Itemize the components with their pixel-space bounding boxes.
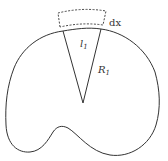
dashed-element-dx xyxy=(58,9,106,27)
radius-label: R1 xyxy=(97,64,110,77)
diagram-canvas: dx l1 R1 xyxy=(0,0,168,161)
arc-length-label: l1 xyxy=(80,38,88,51)
dx-label: dx xyxy=(109,17,121,28)
